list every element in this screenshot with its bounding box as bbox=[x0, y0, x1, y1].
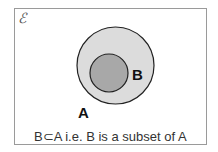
set-b-circle bbox=[90, 54, 128, 92]
set-a-label: A bbox=[78, 104, 89, 121]
caption: B⊂A i.e. B is a subset of A bbox=[34, 129, 187, 144]
set-b-label: B bbox=[132, 66, 143, 83]
